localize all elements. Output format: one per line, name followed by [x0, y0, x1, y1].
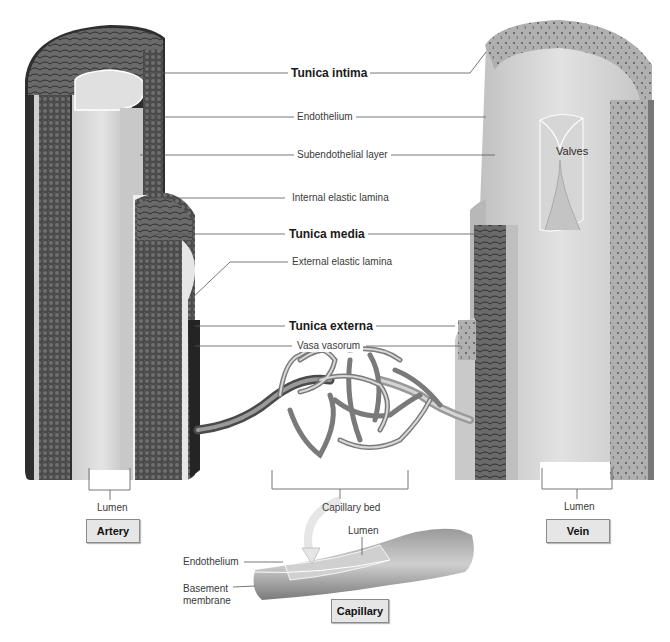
vein-illustration — [455, 20, 654, 480]
label-vasa-vasorum: Vasa vasorum — [294, 340, 363, 352]
vein-label-box: Vein — [546, 519, 610, 543]
artery-label-box: Artery — [86, 519, 140, 543]
label-basement-membrane-line2: membrane — [180, 595, 234, 607]
label-vein-lumen: Lumen — [561, 501, 598, 513]
label-basement-membrane-line1: Basement — [180, 583, 231, 595]
label-artery-lumen: Lumen — [94, 502, 131, 514]
blood-vessel-diagram: Tunica intima Endothelium Subendothelial… — [0, 0, 670, 642]
label-capillary-bed: Capillary bed — [319, 502, 383, 514]
label-capillary-endothelium: Endothelium — [180, 556, 242, 568]
label-tunica-media: Tunica media — [286, 227, 368, 241]
label-valves: Valves — [556, 145, 588, 157]
label-capillary-lumen: Lumen — [345, 525, 382, 537]
vein-label: Vein — [567, 525, 590, 537]
label-endothelium: Endothelium — [294, 111, 356, 123]
label-external-elastic-lamina: External elastic lamina — [289, 256, 395, 268]
capillary-bed-illustration — [198, 349, 470, 455]
capillary-illustration — [252, 500, 474, 600]
label-tunica-intima: Tunica intima — [288, 66, 370, 80]
artery-label: Artery — [97, 525, 129, 537]
label-tunica-externa: Tunica externa — [286, 319, 376, 333]
capillary-label-box: Capillary — [331, 599, 389, 623]
label-subendothelial-layer: Subendothelial layer — [294, 149, 391, 161]
capillary-label: Capillary — [337, 605, 383, 617]
label-internal-elastic-lamina: Internal elastic lamina — [289, 192, 392, 204]
artery-illustration — [25, 25, 200, 480]
